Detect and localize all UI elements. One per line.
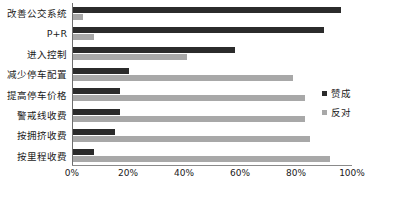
x-tick-label: 100%: [339, 168, 365, 178]
bar-group-row: [73, 3, 352, 23]
category-label: 减少停车配置: [0, 64, 70, 84]
bar-against: [73, 34, 94, 40]
bar-group-row: [73, 23, 352, 43]
legend-label: 赞成: [331, 86, 351, 100]
bar-rows: [73, 3, 352, 166]
legend-item-for: 赞成: [322, 86, 351, 100]
bar-for: [73, 88, 120, 94]
bar-for: [73, 47, 235, 53]
legend-item-against: 反对: [322, 105, 351, 119]
bar-for: [73, 68, 129, 74]
bar-group-row: [73, 146, 352, 166]
legend-swatch-icon: [322, 110, 327, 115]
bar-against: [73, 95, 305, 101]
bar-against: [73, 75, 293, 81]
legend-label: 反对: [331, 105, 351, 119]
bar-for: [73, 129, 115, 135]
legend-swatch-icon: [322, 91, 327, 96]
bar-chart: 改善公交系统 P+R 进入控制 减少停车配置 提高停车价格 警戒线收费 按拥挤收…: [0, 0, 396, 199]
category-label: 按拥挤收费: [0, 125, 70, 145]
bar-group-row: [73, 64, 352, 84]
category-label: 改善公交系统: [0, 3, 70, 23]
bar-against: [73, 156, 330, 162]
category-label: 提高停车价格: [0, 85, 70, 105]
bar-group-row: [73, 85, 352, 105]
x-tick-label: 40%: [174, 168, 194, 178]
plot-area: [72, 3, 352, 166]
legend: 赞成 反对: [322, 86, 351, 119]
bar-for: [73, 109, 120, 115]
bar-for: [73, 7, 341, 13]
bar-against: [73, 136, 310, 142]
value-axis-tick-labels: 0% 20% 40% 60% 80% 100%: [72, 168, 352, 184]
bar-against: [73, 54, 187, 60]
x-tick-label: 0%: [65, 168, 79, 178]
category-axis-labels: 改善公交系统 P+R 进入控制 减少停车配置 提高停车价格 警戒线收费 按拥挤收…: [0, 3, 70, 166]
bar-for: [73, 27, 324, 33]
x-tick-label: 60%: [230, 168, 250, 178]
x-tick-label: 80%: [286, 168, 306, 178]
category-label: 进入控制: [0, 44, 70, 64]
x-tick-label: 20%: [118, 168, 138, 178]
category-label: 警戒线收费: [0, 105, 70, 125]
bar-group-row: [73, 125, 352, 145]
bar-group-row: [73, 44, 352, 64]
bar-against: [73, 14, 83, 20]
category-label: P+R: [0, 23, 70, 43]
bar-for: [73, 149, 94, 155]
category-label: 按里程收费: [0, 146, 70, 166]
bar-group-row: [73, 105, 352, 125]
bar-against: [73, 116, 305, 122]
